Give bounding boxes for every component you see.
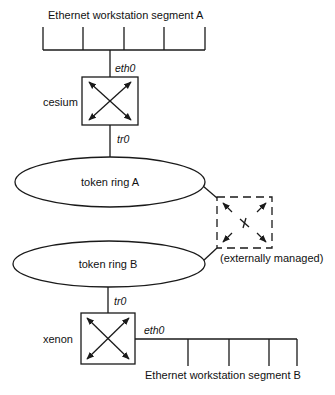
segment-b-label: Ethernet workstation segment B [145, 369, 301, 381]
external-router-note: (externally managed) [220, 252, 323, 264]
cesium-name: cesium [43, 96, 78, 108]
ring-a-external-link [203, 186, 217, 198]
ring-b-external-link [203, 248, 217, 261]
xenon-name: xenon [43, 333, 73, 345]
router-external: (externally managed) [217, 197, 323, 264]
xenon-tr0-label: tr0 [114, 295, 126, 307]
cesium-eth0-label: eth0 [115, 62, 136, 74]
ethernet-segment-b: Ethernet workstation segment B [135, 339, 301, 381]
network-diagram: Ethernet workstation segment A eth0 cesi… [0, 0, 335, 395]
token-ring-b: token ring B [13, 241, 205, 287]
segment-a-label: Ethernet workstation segment A [48, 9, 204, 21]
cesium-tr0-label: tr0 [117, 133, 129, 145]
ring-a-label: token ring A [81, 176, 140, 188]
ethernet-segment-a: Ethernet workstation segment A [43, 9, 205, 50]
router-cesium: eth0 cesium tr0 [43, 50, 138, 157]
router-cross-arrows-icon [223, 203, 266, 242]
ring-b-label: token ring B [79, 258, 138, 270]
token-ring-a: token ring A [15, 157, 205, 207]
router-xenon: tr0 xenon eth0 [43, 287, 165, 364]
xenon-eth0-label: eth0 [144, 324, 165, 336]
